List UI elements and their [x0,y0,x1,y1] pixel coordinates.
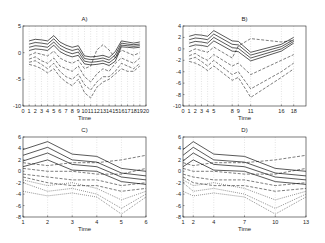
series-line [189,39,294,58]
y-tick-label: -4 [16,191,21,197]
x-tick-label: 5 [120,219,123,225]
y-tick-label: 6 [18,134,21,140]
y-tick-label: -2 [176,57,181,63]
y-tick-label: 2 [18,157,21,163]
x-tick-label: 4 [206,108,209,114]
y-tick-label: -6 [176,203,181,209]
x-tick-label: 11 [248,108,254,114]
x-axis-label: Time [78,226,92,232]
x-tick-label: 20 [143,108,149,114]
y-tick-label: 0 [18,50,21,56]
series-line [189,53,294,74]
x-tick-label: 7 [243,219,246,225]
series-line [23,174,146,186]
y-tick-label: -8 [176,214,181,220]
y-tick-label: -4 [176,191,181,197]
y-tick-label: -2 [176,180,181,186]
x-tick-label: 1 [28,108,31,114]
x-tick-label: 1 [181,219,184,225]
y-tick-label: -10 [173,103,181,109]
x-tick-label: 0 [181,108,184,114]
series-line [189,57,294,89]
series-line [189,31,294,53]
x-tick-label: 13 [303,219,309,225]
y-tick-label: -2 [16,180,21,186]
panel-title: D) [241,127,247,133]
y-tick-label: -6 [16,203,21,209]
series-line [189,61,294,97]
series-line [23,155,146,165]
x-tick-label: 10 [81,108,87,114]
x-tick-label: 3 [200,108,203,114]
x-tick-label: 3 [40,108,43,114]
figure: 0123456789101112131415161718192050-5-10A… [0,0,325,243]
y-tick-label: -6 [176,80,181,86]
y-tick-label: 4 [178,145,181,151]
x-tick-label: 4 [212,219,215,225]
y-tick-label: 2 [178,34,181,40]
series-line [23,153,146,180]
x-tick-label: 9 [237,108,240,114]
panel-a: 0123456789101112131415161718192050-5-10A… [13,16,149,121]
y-tick-label: -4 [176,69,181,75]
panel-c: 1234566420-2-4-6-8C)Time [16,127,147,232]
x-tick-label: 5 [52,108,55,114]
x-tick-label: 5 [212,108,215,114]
series-line [29,42,140,63]
x-axis-label: Time [78,115,92,121]
series-line [183,177,306,191]
panel-title: B) [242,16,248,22]
x-tick-label: 7 [65,108,68,114]
series-line [23,191,146,214]
panel-d: 124710136420-2-4-6-8D)Time [176,127,309,232]
y-tick-label: 6 [178,134,181,140]
series-line [23,142,146,172]
x-tick-label: 6 [58,108,61,114]
x-tick-label: 2 [192,219,195,225]
x-tick-label: 8 [71,108,74,114]
series-line [23,177,146,191]
x-axis-label: Time [238,226,252,232]
x-tick-label: 0 [21,108,24,114]
x-tick-label: 3 [71,219,74,225]
panel-b: 01234589111618420-2-4-6-8-10B)Time [173,16,306,121]
x-tick-label: 6 [144,219,147,225]
x-tick-label: 2 [194,108,197,114]
x-tick-label: 18 [291,108,297,114]
x-tick-label: 2 [46,219,49,225]
x-tick-label: 1 [21,219,24,225]
series-line [23,183,146,209]
x-tick-label: 4 [95,219,98,225]
y-tick-label: -5 [16,76,21,82]
x-tick-label: 1 [188,108,191,114]
x-tick-label: 4 [46,108,49,114]
panel-title: C) [81,127,87,133]
x-tick-label: 8 [231,108,234,114]
y-tick-label: 0 [178,168,181,174]
x-axis-label: Time [238,115,252,121]
series-line [29,61,140,90]
y-tick-label: 4 [178,23,181,29]
y-tick-label: -10 [13,103,21,109]
panel-title: A) [82,16,88,22]
x-tick-label: 9 [77,108,80,114]
x-tick-label: 11 [88,108,94,114]
y-tick-label: -8 [176,92,181,98]
x-tick-label: 16 [278,108,284,114]
y-tick-label: 4 [18,145,21,151]
y-tick-label: -8 [16,214,21,220]
series-line [23,180,146,200]
y-tick-label: 2 [178,157,181,163]
y-tick-label: 0 [18,168,21,174]
y-tick-label: 0 [178,46,181,52]
x-tick-label: 10 [272,219,278,225]
y-tick-label: 5 [18,23,21,29]
x-tick-label: 2 [34,108,37,114]
series-line [23,160,146,185]
